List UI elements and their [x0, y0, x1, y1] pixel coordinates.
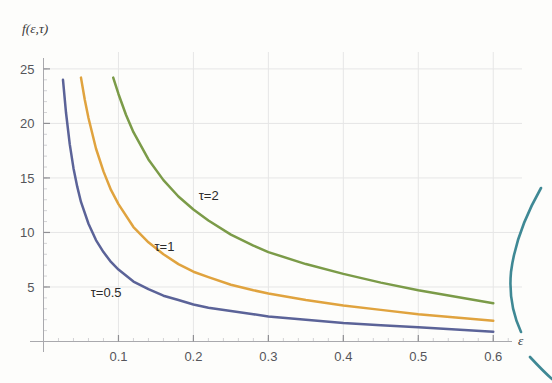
plot-figure: 510152025 0.10.20.30.40.50.6 τ=0.5τ=1τ=2… — [0, 0, 552, 383]
y-axis-label: f(ε,τ) — [22, 21, 49, 36]
plot-svg: 510152025 0.10.20.30.40.50.6 τ=0.5τ=1τ=2… — [0, 0, 552, 383]
x-tick-label: 0.6 — [484, 349, 502, 364]
curve-label: τ=0.5 — [91, 285, 122, 300]
y-tick-label: 25 — [20, 62, 34, 77]
y-tick-label: 15 — [20, 171, 34, 186]
y-tick-label: 5 — [27, 280, 34, 295]
x-axis-label: ε — [518, 333, 524, 348]
x-tick-label: 0.5 — [409, 349, 427, 364]
y-tick-label: 10 — [20, 225, 34, 240]
curve-label: τ=2 — [199, 188, 219, 203]
x-tick-label: 0.3 — [259, 349, 277, 364]
x-tick-label: 0.1 — [109, 349, 127, 364]
figure-background — [0, 0, 552, 383]
y-tick-label: 20 — [20, 116, 34, 131]
x-tick-label: 0.4 — [334, 349, 352, 364]
curve-label: τ=1 — [154, 239, 174, 254]
x-tick-label: 0.2 — [184, 349, 202, 364]
